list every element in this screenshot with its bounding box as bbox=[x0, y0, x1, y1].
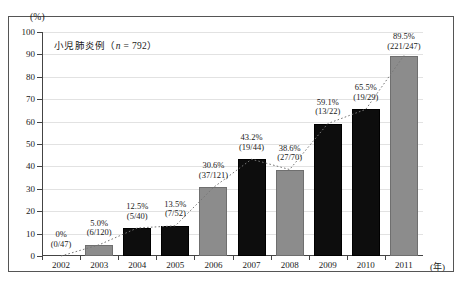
x-axis-tick-label: 2011 bbox=[395, 260, 413, 270]
bar-data-label: 30.6%(37/121) bbox=[199, 161, 228, 180]
bar-data-label: 0%(0/47) bbox=[51, 230, 72, 249]
bar-fraction-label: (5/40) bbox=[126, 212, 148, 222]
bar-percent-label: 89.5% bbox=[393, 31, 415, 41]
x-axis-unit-label: (年) bbox=[430, 260, 445, 273]
y-axis-tick-label: 30 bbox=[26, 184, 35, 193]
y-axis-tick-label: 60 bbox=[26, 117, 35, 126]
x-axis-tick-label: 2002 bbox=[52, 260, 70, 270]
bar-percent-label: 59.1% bbox=[317, 97, 339, 107]
y-axis-tick-label: 70 bbox=[26, 95, 35, 104]
bar-percent-label: 5.0% bbox=[90, 218, 108, 228]
bar-data-label: 59.1%(13/22) bbox=[315, 98, 340, 117]
y-axis-tick-label: 50 bbox=[26, 140, 35, 149]
bar-fraction-label: (19/44) bbox=[239, 143, 264, 153]
x-axis-tick-label: 2010 bbox=[357, 260, 375, 270]
bar-data-label: 13.5%(7/52) bbox=[164, 200, 186, 219]
bar-data-label: 65.5%(19/29) bbox=[353, 83, 378, 102]
x-axis-tick-label: 2009 bbox=[319, 260, 337, 270]
bar-data-label: 38.6%(27/70) bbox=[277, 144, 302, 163]
bar-percent-label: 30.6% bbox=[202, 160, 224, 170]
bar-percent-label: 13.5% bbox=[164, 199, 186, 209]
bar-fraction-label: (6/120) bbox=[87, 228, 112, 238]
bar-percent-label: 38.6% bbox=[279, 143, 301, 153]
bar-fraction-label: (0/47) bbox=[51, 240, 72, 250]
x-axis-tick-label: 2003 bbox=[90, 260, 108, 270]
y-axis-unit-label: (%) bbox=[30, 12, 45, 22]
x-axis-tick-label: 2008 bbox=[281, 260, 299, 270]
y-axis-tick-label: 40 bbox=[26, 162, 35, 171]
bar-fraction-label: (7/52) bbox=[164, 209, 186, 219]
y-axis-tick-label: 90 bbox=[26, 50, 35, 59]
y-axis-tick-label: 10 bbox=[26, 229, 35, 238]
bar-fraction-label: (27/70) bbox=[277, 153, 302, 163]
bar-data-label: 12.5%(5/40) bbox=[126, 202, 148, 221]
chart-title-prefix: 小児肺炎例（ bbox=[54, 41, 116, 51]
x-axis-tick-label: 2004 bbox=[128, 260, 146, 270]
bar-fraction-label: (37/121) bbox=[199, 171, 228, 181]
bar-fraction-label: (19/29) bbox=[353, 93, 378, 103]
bar-percent-label: 43.2% bbox=[241, 132, 263, 142]
y-axis-tick-label: 0 bbox=[31, 252, 36, 261]
bar-fraction-label: (221/247) bbox=[387, 42, 421, 52]
x-axis-tick-label: 2006 bbox=[204, 260, 222, 270]
bar-fraction-label: (13/22) bbox=[315, 107, 340, 117]
bar-data-label: 89.5%(221/247) bbox=[387, 32, 421, 51]
bar-data-label: 43.2%(19/44) bbox=[239, 133, 264, 152]
x-axis-tick-label: 2007 bbox=[243, 260, 261, 270]
bar-percent-label: 12.5% bbox=[126, 201, 148, 211]
plot-area: 0102030405060708090100 0%(0/47)5.0%(6/12… bbox=[42, 32, 423, 256]
chart-title: 小児肺炎例（n = 792） bbox=[54, 38, 157, 52]
bar-percent-label: 0% bbox=[55, 229, 66, 239]
y-axis-tick-label: 80 bbox=[26, 72, 35, 81]
chart-figure: (%) 0102030405060708090100 0%(0/47)5.0%(… bbox=[0, 0, 463, 293]
x-axis-tick-label: 2005 bbox=[166, 260, 184, 270]
y-axis-tick-label: 20 bbox=[26, 207, 35, 216]
y-axis-tick-label: 100 bbox=[22, 28, 36, 37]
plot-inner: 0102030405060708090100 0%(0/47)5.0%(6/12… bbox=[42, 32, 423, 256]
bar-data-label: 5.0%(6/120) bbox=[87, 219, 112, 238]
chart-title-suffix: = 792） bbox=[121, 41, 157, 51]
bar-percent-label: 65.5% bbox=[355, 82, 377, 92]
